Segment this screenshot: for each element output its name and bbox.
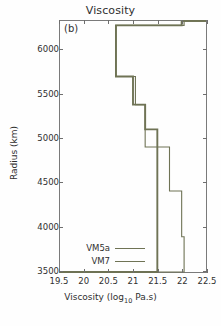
x-tick-top bbox=[59, 20, 60, 24]
legend-line-swatch bbox=[115, 261, 145, 262]
chart-title: Viscosity bbox=[0, 4, 221, 17]
y-tick-left bbox=[59, 227, 63, 228]
x-tick-top bbox=[158, 20, 159, 24]
x-axis-title: Viscosity (log10 Pa.s) bbox=[0, 292, 221, 305]
y-tick-right bbox=[203, 49, 207, 50]
y-tick-left bbox=[59, 94, 63, 95]
y-tick-label: 6000 bbox=[37, 44, 59, 54]
x-tick-top bbox=[133, 20, 134, 24]
plot-area: (b) bbox=[59, 20, 207, 273]
x-tick-bottom bbox=[158, 269, 159, 273]
y-tick-left bbox=[59, 49, 63, 50]
y-tick-label: 3500 bbox=[37, 266, 59, 276]
series-line-vm7 bbox=[60, 21, 184, 272]
x-axis-title-main: Viscosity (log bbox=[64, 292, 124, 302]
legend: VM5aVM7 bbox=[63, 243, 145, 266]
y-tick-left bbox=[59, 271, 63, 272]
x-tick-bottom bbox=[108, 269, 109, 273]
y-tick-right bbox=[203, 94, 207, 95]
x-tick-label: 20.5 bbox=[99, 276, 118, 286]
y-tick-label: 5000 bbox=[37, 133, 59, 143]
x-tick-label: 21.5 bbox=[148, 276, 167, 286]
legend-label: VM7 bbox=[91, 256, 110, 266]
y-tick-label: 5500 bbox=[37, 89, 59, 99]
x-tick-bottom bbox=[182, 269, 183, 273]
x-tick-top bbox=[84, 20, 85, 24]
y-tick-right bbox=[203, 138, 207, 139]
y-tick-label: 4000 bbox=[37, 222, 59, 232]
y-tick-right bbox=[203, 271, 207, 272]
x-tick-label: 20 bbox=[78, 276, 89, 286]
x-tick-label: 22.5 bbox=[198, 276, 217, 286]
legend-label: VM5a bbox=[86, 243, 110, 253]
y-tick-right bbox=[203, 227, 207, 228]
x-tick-top bbox=[207, 20, 208, 24]
x-tick-bottom bbox=[84, 269, 85, 273]
x-tick-bottom bbox=[207, 269, 208, 273]
x-tick-top bbox=[108, 20, 109, 24]
legend-line-swatch bbox=[115, 248, 145, 249]
x-tick-label: 22 bbox=[177, 276, 188, 286]
y-tick-left bbox=[59, 138, 63, 139]
y-tick-right bbox=[203, 182, 207, 183]
y-axis-title: Radius (km) bbox=[9, 103, 19, 203]
y-tick-label: 4500 bbox=[37, 177, 59, 187]
series-layer bbox=[60, 21, 206, 272]
viscosity-figure: Viscosity (b) 19.52020.52121.52222.53500… bbox=[0, 0, 221, 326]
legend-item-vm7[interactable]: VM7 bbox=[63, 256, 145, 266]
y-tick-left bbox=[59, 182, 63, 183]
x-tick-bottom bbox=[133, 269, 134, 273]
x-tick-top bbox=[182, 20, 183, 24]
x-tick-label: 21 bbox=[128, 276, 139, 286]
x-axis-title-tail: Pa.s) bbox=[132, 292, 156, 302]
legend-item-vm5a[interactable]: VM5a bbox=[63, 243, 145, 253]
x-tick-label: 19.5 bbox=[50, 276, 69, 286]
